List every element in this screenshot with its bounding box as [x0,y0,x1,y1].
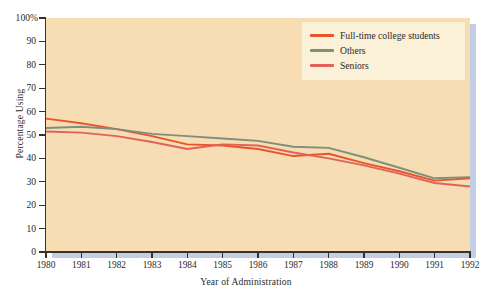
x-axis-tick [187,252,188,258]
legend-item-seniors[interactable]: Seniors [310,58,457,73]
x-axis-tick-label: 1984 [167,260,207,271]
x-axis-tick-label: 1981 [61,260,101,271]
legend-item-label: Others [340,45,366,57]
legend-item-others[interactable]: Others [310,43,457,58]
x-axis-tick [116,252,117,258]
x-axis-tick-label: 1989 [344,260,384,271]
x-axis-tick [363,252,364,258]
legend-item-full-time-college-students[interactable]: Full-time college students [310,28,457,43]
x-axis-tick-label: 1991 [415,260,455,271]
x-axis-tick [434,252,435,258]
x-axis-tick-label: 1987 [273,260,313,271]
x-axis-tick [222,252,223,258]
y-axis-tick-label: 90 [0,36,36,46]
x-axis-tick-label: 1990 [379,260,419,271]
x-axis-tick-label: 1980 [26,260,66,271]
y-axis-tick-label: 20 [0,200,36,210]
x-axis-tick [399,252,400,258]
x-axis-tick-label: 1985 [203,260,243,271]
chart-container: 0102030405060708090100% 1980198119821983… [0,0,492,295]
legend-swatch-icon [310,64,334,66]
legend: Full-time college students Others Senior… [302,22,465,80]
x-axis-tick-label: 1988 [309,260,349,271]
legend-swatch-icon [310,34,334,36]
x-axis-tick [257,252,258,258]
series-line [46,131,470,186]
legend-swatch-icon [310,49,334,51]
x-axis-title: Year of Administration [0,276,492,287]
legend-item-label: Full-time college students [340,30,440,42]
legend-item-label: Seniors [340,60,369,72]
x-axis-tick [45,252,46,258]
x-axis-tick-label: 1986 [238,260,278,271]
y-axis-tick-label: 10 [0,224,36,234]
x-axis-tick [293,252,294,258]
y-axis-line [45,17,46,253]
x-axis-tick [469,252,470,258]
x-axis-tick-label: 1983 [132,260,172,271]
y-axis-tick-label: 100% [0,13,38,23]
x-axis-tick [81,252,82,258]
y-axis-tick-label: 0 [0,247,36,257]
x-axis-tick-label: 1992 [450,260,490,271]
x-axis-tick-label: 1982 [97,260,137,271]
x-axis-tick [151,252,152,258]
x-axis-tick [328,252,329,258]
y-axis-title: Percentage Using [14,64,25,184]
